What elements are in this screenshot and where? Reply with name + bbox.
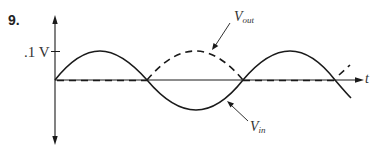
vin-label-main: V — [250, 119, 259, 134]
vout-pointer-arrowhead-icon — [212, 43, 218, 50]
y-tick-label: .1 V — [24, 44, 50, 61]
vin-label: Vin — [250, 119, 266, 135]
t-axis-label: t — [365, 71, 369, 87]
vin-pointer — [227, 101, 248, 121]
waveform-diagram — [0, 0, 382, 152]
vout-label: Vout — [234, 9, 254, 25]
vout-pointer — [212, 23, 230, 50]
problem-number: 9. — [8, 12, 20, 28]
y-axis-up-arrow-icon — [52, 15, 57, 24]
vin-label-sub: in — [259, 125, 266, 135]
vout-label-sub: out — [243, 15, 255, 25]
vout-label-main: V — [234, 9, 243, 24]
t-axis-arrow-icon — [355, 77, 364, 82]
y-axis-down-arrow-icon — [52, 136, 57, 145]
